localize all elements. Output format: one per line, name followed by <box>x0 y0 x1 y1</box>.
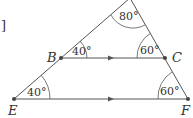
label-B: B <box>46 50 57 65</box>
point-E <box>12 97 16 101</box>
label-E: E <box>7 103 18 118</box>
triangle-diagram: B C E F 80° 40° 60° 40° 60° ] <box>0 0 193 118</box>
angle-label-E: 40° <box>27 86 47 99</box>
angle-label-C: 60° <box>140 44 160 57</box>
parallel-arrow-EF-icon <box>108 97 114 102</box>
parallel-arrow-BC-icon <box>108 56 114 61</box>
label-F: F <box>180 103 191 118</box>
label-C: C <box>172 50 182 65</box>
angle-label-apex: 80° <box>119 10 139 23</box>
point-B <box>59 56 63 60</box>
angle-label-F: 60° <box>160 85 180 98</box>
point-C <box>163 56 167 60</box>
point-F <box>186 97 190 101</box>
angle-label-B: 40° <box>72 45 92 58</box>
bracket-mark: ] <box>1 18 6 33</box>
